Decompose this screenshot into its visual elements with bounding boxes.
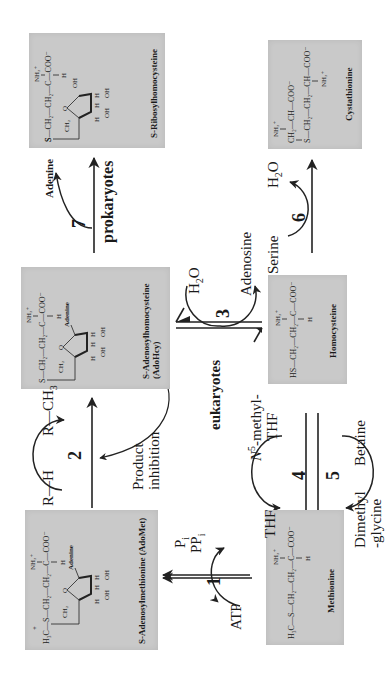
thf-in-text: THF xyxy=(264,394,280,461)
pi-text: P xyxy=(172,540,188,548)
h2o-step3-label: H2O xyxy=(186,267,205,294)
n5-sup: 5 xyxy=(246,446,257,451)
r-ch3-label: R—CH3 xyxy=(40,385,59,436)
product-inhibition-label: Product inhibition xyxy=(130,432,162,490)
methionine-cycle-diagram: S S—CH₂—CH₂—C—COO⁻ NH₃⁺ H CH₂ O OH H H H… xyxy=(0,0,389,698)
atp-label: ATP xyxy=(228,603,244,630)
n5-methyl-thf-label: N5-methyl- THF xyxy=(246,394,280,461)
r-ch3-subscript: 3 xyxy=(48,385,59,390)
dimethyl-text: Dimethyl xyxy=(352,491,368,548)
h2o-step6-label: H2O xyxy=(265,161,284,188)
adenine-label: Adenine xyxy=(44,159,55,198)
step-7-number: 7 xyxy=(70,219,88,228)
betaine-label: Betaine xyxy=(352,420,368,466)
dimethylglycine-label: Dimethyl -glycine xyxy=(352,491,384,548)
adenosine-label: Adenosine xyxy=(238,232,254,296)
inhibition-text: inhibition xyxy=(146,432,162,490)
reaction-1-group xyxy=(0,0,389,698)
h2o-3-h: H xyxy=(186,283,202,294)
product-text: Product xyxy=(130,432,146,490)
n5-methyl-text: -methyl- xyxy=(248,394,264,446)
serine-label: Serine xyxy=(265,236,281,274)
h2o-3-o: O xyxy=(186,267,202,278)
step-3-number: 3 xyxy=(214,309,232,318)
step-4-number: 4 xyxy=(290,471,308,480)
eukaryotes-label: eukaryotes xyxy=(207,360,223,430)
step-5-number: 5 xyxy=(324,471,342,480)
r-ch3-text: R—CH xyxy=(40,390,56,436)
h2o-6-h: H xyxy=(265,177,281,188)
ppi-label: PPi xyxy=(188,534,207,553)
h2o-6-o: O xyxy=(265,161,281,172)
ppi-subscript: i xyxy=(196,534,207,537)
step-6-number: 6 xyxy=(290,213,308,222)
ppi-text: PP xyxy=(188,536,204,553)
thf-out-label: THF xyxy=(262,510,278,538)
glycine-text: -glycine xyxy=(368,491,384,548)
prokaryotes-label: prokaryotes xyxy=(100,161,116,243)
step-2-number: 2 xyxy=(66,451,84,460)
n5-n: N xyxy=(248,451,264,461)
h2o-3-sub: 2 xyxy=(194,278,205,283)
r-h-label: R—H xyxy=(40,470,56,506)
step-1-number: 1 xyxy=(205,577,223,586)
h2o-6-sub: 2 xyxy=(273,172,284,177)
